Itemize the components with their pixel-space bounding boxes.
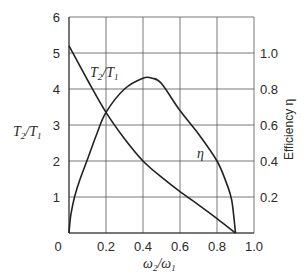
right-tick-label: 0.6 [260,118,278,133]
left-tick-label: 2 [53,154,60,169]
left-tick-label: 6 [53,10,60,25]
x-tick-label: 0.4 [134,239,152,254]
chart: 0.20.40.60.81.001234560.20.40.60.81.0 T2… [0,0,305,277]
x-tick-label: 0.8 [208,239,226,254]
left-tick-label: 5 [53,46,60,61]
x-axis-label: ω2/ω1 [143,256,176,273]
right-tick-label: 0.8 [260,82,278,97]
grid [69,17,254,233]
x-tick-label: 0.2 [97,239,115,254]
right-axis-label: Efficiency η [282,99,296,160]
left-tick-label: 1 [53,190,60,205]
x-tick-label: 1.0 [245,239,263,254]
origin-label: 0 [54,239,61,254]
right-tick-label: 1.0 [260,46,278,61]
x-tick-label: 0.6 [171,239,189,254]
left-tick-label: 4 [53,82,60,97]
left-tick-label: 3 [53,118,60,133]
left-axis-label: T2/T1 [13,124,41,141]
curve-label-efficiency: η [197,146,204,161]
right-tick-label: 0.2 [260,190,278,205]
efficiency-curve [69,77,236,233]
tick-labels: 0.20.40.60.81.001234560.20.40.60.81.0 [53,10,278,254]
curve-label-torque: T2/T1 [90,65,118,82]
right-tick-label: 0.4 [260,154,278,169]
